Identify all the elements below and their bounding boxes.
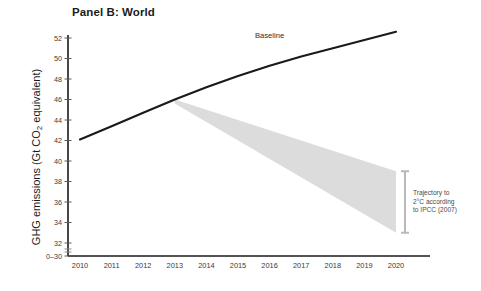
- baseline-series-label: Baseline: [255, 31, 284, 40]
- y-tick-label: 42: [54, 136, 62, 145]
- x-tick-label: 2015: [230, 261, 246, 270]
- y-tick-label: 48: [54, 75, 62, 84]
- y-tick-label: 52: [54, 34, 62, 43]
- y-tick-label: 38: [54, 177, 62, 186]
- x-tick-label: 2020: [388, 261, 404, 270]
- y-tick-label: 32: [54, 239, 62, 248]
- x-tick-label: 2013: [167, 261, 183, 270]
- x-tick-label: 2016: [261, 261, 277, 270]
- y-tick-label: 46: [54, 95, 62, 104]
- chart-figure: Panel B: World GHG emissions (Gt CO2 equ…: [0, 0, 481, 291]
- x-tick-label: 2012: [135, 261, 151, 270]
- x-tick-label: 2010: [72, 261, 88, 270]
- trajectory-annotation-line-3: to IPCC (2007): [413, 206, 457, 215]
- y-tick-label: 36: [54, 198, 62, 207]
- trajectory-annotation: Trajectory to2°C accordingto IPCC (2007): [413, 189, 457, 215]
- x-tick-label: 2011: [104, 261, 120, 270]
- y-tick-label: 40: [54, 157, 62, 166]
- x-tick-label: 2019: [356, 261, 372, 270]
- y-tick-label: 34: [54, 218, 62, 227]
- x-tick-label: 2014: [198, 261, 214, 270]
- y-tick-label: 44: [54, 116, 62, 125]
- plot-area: 0–30323436384042444648505220102011201220…: [0, 0, 481, 291]
- trajectory-annotation-line-1: Trajectory to: [413, 189, 457, 198]
- x-tick-label: 2017: [293, 261, 309, 270]
- trajectory-annotation-line-2: 2°C according: [413, 198, 457, 207]
- x-tick-label: 2018: [325, 261, 341, 270]
- y-tick-label: 0–30: [46, 252, 62, 261]
- y-tick-label: 50: [54, 54, 62, 63]
- trajectory-wedge: [175, 100, 396, 233]
